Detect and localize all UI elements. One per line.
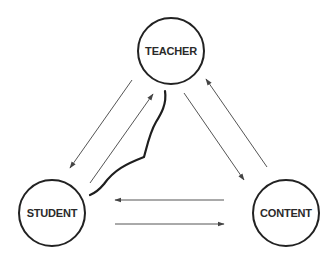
teacher-student-content-triangle-diagram: TEACHER STUDENT CONTENT	[0, 0, 334, 261]
arrow-teacher-to-content	[184, 93, 244, 180]
teacher-label: TEACHER	[145, 45, 197, 57]
barrier-curve	[90, 91, 165, 195]
arrow-content-to-teacher	[206, 79, 267, 167]
node-student: STUDENT	[19, 180, 85, 246]
student-label: STUDENT	[27, 207, 78, 219]
content-label: CONTENT	[260, 207, 312, 219]
node-content: CONTENT	[253, 180, 319, 246]
arrow-teacher-to-student	[70, 80, 132, 168]
node-teacher: TEACHER	[138, 18, 204, 84]
edges	[70, 79, 267, 224]
arrow-student-to-teacher	[90, 94, 153, 183]
